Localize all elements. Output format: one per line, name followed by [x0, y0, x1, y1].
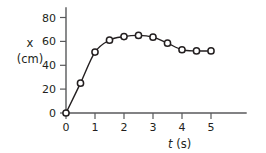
x-tick-label-5: 5	[208, 121, 215, 134]
y-axis-tick-labels: 80 60 40 20 0	[42, 12, 56, 121]
data-point	[121, 34, 127, 40]
y-tick-label-0: 0	[49, 107, 56, 120]
x-tick-label-1: 1	[92, 121, 99, 134]
x-axis-title-text: t (s)	[168, 137, 191, 151]
data-point	[63, 110, 69, 116]
data-series-line	[66, 35, 211, 113]
y-tick-label-60: 60	[42, 35, 56, 48]
x-axis-title-unit: (s)	[176, 137, 191, 151]
y-axis-title-symbol: x	[27, 36, 34, 50]
axes-group	[66, 8, 246, 113]
x-axis-tick-labels: 0 1 2 3 4 5	[63, 121, 215, 134]
position-time-chart: 80 60 40 20 0 0 1 2 3 4 5 x (cm)	[0, 0, 266, 153]
x-tick-label-3: 3	[150, 121, 157, 134]
data-point	[193, 48, 199, 54]
y-tick-label-20: 20	[42, 83, 56, 96]
chart-canvas: 80 60 40 20 0 0 1 2 3 4 5 x (cm)	[0, 0, 266, 153]
y-axis-title: x (cm)	[17, 36, 44, 66]
data-point	[77, 80, 83, 86]
data-point	[164, 40, 170, 46]
data-point	[106, 37, 112, 43]
y-tick-label-80: 80	[42, 12, 56, 25]
data-point	[135, 32, 141, 38]
x-tick-label-0: 0	[63, 121, 70, 134]
y-tick-label-40: 40	[42, 59, 56, 72]
y-axis-title-unit: (cm)	[17, 52, 44, 66]
x-tick-label-4: 4	[179, 121, 186, 134]
x-axis-ticks	[66, 113, 211, 119]
data-point	[179, 47, 185, 53]
x-axis-title: t (s)	[168, 137, 191, 151]
data-point	[208, 48, 214, 54]
data-series-markers	[63, 32, 214, 116]
data-point	[150, 34, 156, 40]
y-axis-ticks	[60, 18, 66, 114]
x-tick-label-2: 2	[121, 121, 128, 134]
data-point	[92, 49, 98, 55]
